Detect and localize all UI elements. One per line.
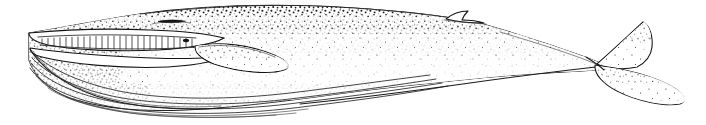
eye-icon xyxy=(183,39,189,42)
whale-drawing-canvas xyxy=(0,0,706,125)
whale-illustration-figure: Black and white stipple-shaded scientifi… xyxy=(0,0,706,125)
